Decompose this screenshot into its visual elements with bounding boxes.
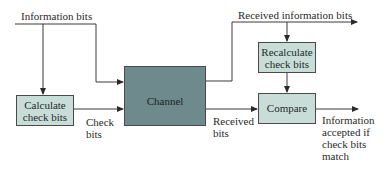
received-bits-line1: Received [213, 115, 254, 127]
calculate-check-bits-box: Calculate check bits [16, 95, 74, 126]
channel-box: Channel [124, 66, 206, 126]
error-detection-diagram: Information bits Received information bi… [0, 0, 386, 171]
output-line2: accepted if [322, 126, 375, 138]
output-line1: Information [322, 114, 375, 126]
received-information-bits-label: Received information bits [238, 9, 352, 21]
recalculate-box-line2: check bits [261, 58, 312, 70]
check-bits-line2: bits [86, 128, 114, 140]
channel-box-label: Channel [147, 95, 184, 107]
recalculate-box-line1: Recalculate [261, 46, 312, 58]
check-bits-line1: Check [86, 116, 114, 128]
output-line3: check bits [322, 138, 375, 150]
calculate-box-line1: Calculate [23, 99, 67, 111]
output-line4: match [322, 150, 375, 162]
received-bits-line2: bits [213, 127, 254, 139]
compare-box-label: Compare [267, 102, 307, 114]
output-label: Information accepted if check bits match [322, 114, 375, 162]
information-bits-label: Information bits [21, 10, 92, 22]
compare-box: Compare [258, 93, 316, 124]
received-bits-label: Received bits [213, 115, 254, 139]
check-bits-label: Check bits [86, 116, 114, 140]
calculate-box-line2: check bits [23, 111, 67, 123]
recalculate-check-bits-box: Recalculate check bits [258, 42, 316, 73]
